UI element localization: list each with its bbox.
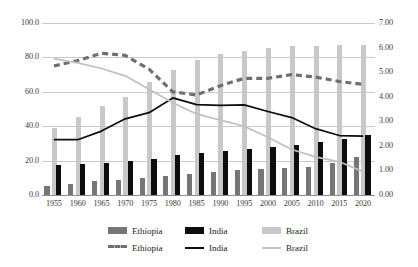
x-tick-label: 1995 (232, 199, 256, 208)
x-tick-label: 2000 (256, 199, 280, 208)
x-tick-label: 2005 (280, 199, 304, 208)
x-tick-label: 2010 (304, 199, 328, 208)
legend-label: Ethiopia (132, 226, 163, 236)
legend-solid-line-icon (185, 247, 204, 249)
line-brazil-solid (54, 59, 363, 172)
line-india-solid (54, 98, 363, 140)
right-tick-label: 6.00 (379, 43, 417, 52)
legend-label: India (209, 243, 228, 253)
legend-item-ethiopia-line[interactable]: Ethiopia (108, 243, 185, 253)
legend-label: Brazil (286, 226, 308, 236)
x-tick-label: 2015 (327, 199, 351, 208)
x-tick-label: 1960 (66, 199, 90, 208)
legend-label: Brazil (286, 243, 308, 253)
legend-bar-swatch-icon (108, 227, 127, 234)
chart-figure: 0.020.040.060.080.0100.0 0.001.002.003.0… (0, 0, 418, 267)
right-tick-label: 0.00 (379, 190, 417, 199)
legend-label: India (209, 226, 228, 236)
right-tick-label: 4.00 (379, 92, 417, 101)
legend-item-india-line[interactable]: India (185, 243, 262, 253)
left-tick-label: 40.0 (0, 121, 39, 130)
chart-legend: EthiopiaIndiaBrazilEthiopiaIndiaBrazil (108, 222, 340, 256)
legend-item-brazil-bar[interactable]: Brazil (262, 226, 339, 236)
x-tick-label: 1975 (137, 199, 161, 208)
legend-item-ethiopia-bar[interactable]: Ethiopia (108, 226, 185, 236)
x-tick-label: 1965 (90, 199, 114, 208)
left-tick-label: 100.0 (0, 18, 39, 27)
legend-dashed-line-icon (108, 245, 127, 251)
left-tick-label: 0.0 (0, 190, 39, 199)
x-tick-label: 1955 (42, 199, 66, 208)
left-tick-label: 20.0 (0, 156, 39, 165)
right-tick-label: 2.00 (379, 141, 417, 150)
axis-baseline (42, 195, 375, 196)
legend-row-line: EthiopiaIndiaBrazil (108, 239, 340, 256)
legend-bar-swatch-icon (262, 227, 281, 234)
legend-row-bar: EthiopiaIndiaBrazil (108, 222, 340, 239)
right-tick-label: 1.00 (379, 165, 417, 174)
x-tick-label: 1980 (161, 199, 185, 208)
legend-label: Ethiopia (132, 243, 163, 253)
x-tick-label: 1990 (209, 199, 233, 208)
legend-item-india-bar[interactable]: India (185, 226, 262, 236)
left-tick-label: 60.0 (0, 87, 39, 96)
right-tick-label: 7.00 (379, 18, 417, 27)
x-tick-label: 2020 (351, 199, 375, 208)
x-tick-label: 1970 (113, 199, 137, 208)
legend-item-brazil-line[interactable]: Brazil (262, 243, 339, 253)
plot-area (42, 23, 375, 195)
left-tick-label: 80.0 (0, 52, 39, 61)
line-layer (42, 23, 375, 195)
x-tick-label: 1985 (185, 199, 209, 208)
right-tick-label: 3.00 (379, 116, 417, 125)
legend-solid-line-icon (262, 247, 281, 249)
legend-bar-swatch-icon (185, 227, 204, 234)
line-ethiopia-dashed (54, 53, 363, 95)
right-tick-label: 5.00 (379, 67, 417, 76)
